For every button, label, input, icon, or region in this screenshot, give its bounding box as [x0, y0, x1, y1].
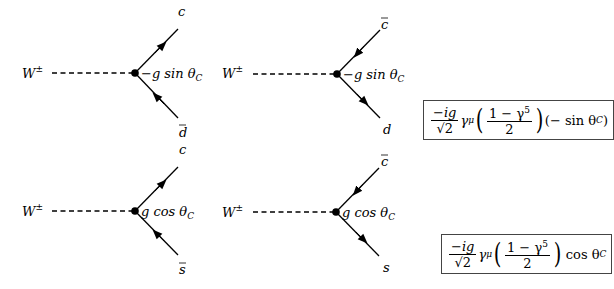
- top-fermion-label: c: [381, 154, 389, 169]
- bottom-fermion-label: s: [383, 260, 390, 275]
- top-fermion-label: c: [381, 17, 389, 32]
- bottom-fermion-label: d: [383, 122, 391, 137]
- boson-label: W±: [22, 64, 43, 81]
- arrow-outgoing-icon: [155, 45, 163, 53]
- coupling-label: −g sin θC: [343, 67, 405, 84]
- coupling-label: g cos θC: [342, 205, 395, 222]
- vertex-diagram-1: W± −g sin θC c d: [22, 4, 203, 140]
- vertex-factor-formula-2: −ig √2 γμ ( 1 − γ5 2 ) cos θC: [441, 234, 612, 274]
- arrow-incoming-icon: [356, 184, 363, 192]
- chiral-projector-fraction: 1 − γ5 2: [505, 237, 550, 271]
- vertex-diagram-3: W± g cos θC c s: [22, 142, 194, 277]
- arrow-outgoing-icon: [357, 94, 365, 102]
- vertex-diagram-2: W± −g sin θC c d: [222, 17, 405, 137]
- vertex-dot: [332, 208, 340, 216]
- vertex-diagram-4: W± g cos θC c s: [222, 154, 395, 275]
- left-paren: (: [476, 106, 484, 134]
- cabibbo-factor: cos θ: [566, 247, 600, 262]
- cabibbo-factor: (− sin θ: [545, 113, 596, 128]
- boson-label: W±: [222, 64, 243, 81]
- arrow-incoming-icon: [357, 46, 364, 54]
- boson-label: W±: [22, 202, 43, 219]
- gamma-matrix: γ: [460, 113, 468, 128]
- left-paren: (: [494, 240, 502, 268]
- coupling-fraction: −ig √2: [431, 105, 458, 136]
- arrow-incoming-icon: [156, 96, 164, 104]
- vertex-dot: [131, 69, 139, 77]
- coupling-fraction: −ig √2: [449, 239, 476, 270]
- right-paren: ): [536, 106, 544, 134]
- vertex-dot: [333, 70, 341, 78]
- vertex-dot: [131, 207, 139, 215]
- bottom-fermion-label: d: [179, 125, 187, 140]
- arrow-incoming-icon: [156, 233, 164, 241]
- arrow-outgoing-icon: [155, 183, 163, 191]
- vertex-factor-formula-1: −ig √2 γμ ( 1 − γ5 2 ) (− sin θC): [423, 100, 614, 140]
- boson-label: W±: [222, 203, 243, 220]
- bottom-fermion-label: s: [179, 262, 186, 277]
- arrow-outgoing-icon: [356, 232, 364, 240]
- chiral-projector-fraction: 1 − γ5 2: [487, 103, 532, 137]
- coupling-label: −g sin θC: [141, 66, 203, 83]
- top-fermion-label: c: [179, 142, 187, 157]
- coupling-label: g cos θC: [141, 204, 194, 221]
- gamma-matrix: γ: [478, 247, 486, 262]
- top-fermion-label: c: [178, 4, 186, 19]
- right-paren: ): [554, 240, 562, 268]
